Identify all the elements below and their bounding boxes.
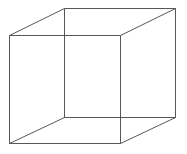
cube-edge-front-top-right-to-back-top-right [121, 9, 176, 36]
cube-edge-front-top-left-to-back-top-left [10, 9, 65, 36]
cube-edge-front-bottom-left-to-back-bottom-left [10, 118, 65, 144]
necker-cube-diagram [0, 0, 187, 154]
cube-edge-front-bottom-right-to-back-bottom-right [121, 118, 176, 144]
